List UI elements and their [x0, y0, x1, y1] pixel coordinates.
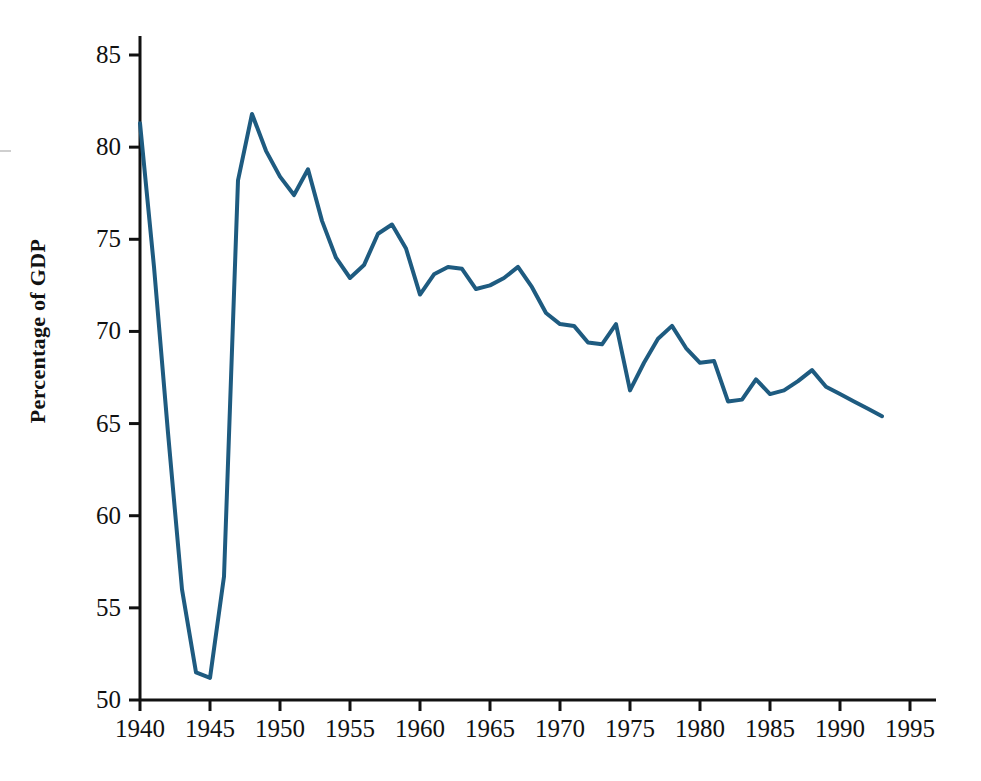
plot-area: [0, 0, 981, 781]
y-axis-tick-label: 65: [75, 411, 121, 436]
y-axis-tick-label: 60: [75, 503, 121, 528]
x-axis-tick-label: 1940: [100, 716, 180, 741]
x-axis-tick-label: 1950: [240, 716, 320, 741]
x-axis-tick-label: 1995: [870, 716, 950, 741]
x-axis-tick-label: 1965: [450, 716, 530, 741]
data-series-line: [140, 114, 882, 678]
y-axis-tick-label: 55: [75, 595, 121, 620]
y-axis-ticks: [129, 55, 140, 700]
x-axis-tick-label: 1975: [590, 716, 670, 741]
x-axis-tick-label: 1985: [730, 716, 810, 741]
x-axis-tick-label: 1955: [310, 716, 390, 741]
y-axis-tick-label: 80: [75, 134, 121, 159]
x-axis-tick-label: 1980: [660, 716, 740, 741]
y-axis-tick-label: 50: [75, 687, 121, 712]
x-axis-tick-label: 1960: [380, 716, 460, 741]
x-axis-tick-label: 1990: [800, 716, 880, 741]
x-axis-ticks: [140, 700, 910, 711]
y-axis-tick-label: 85: [75, 42, 121, 67]
x-axis-tick-label: 1945: [170, 716, 250, 741]
x-axis-tick-label: 1970: [520, 716, 600, 741]
y-axis-tick-label: 75: [75, 226, 121, 251]
y-axis-tick-label: 70: [75, 318, 121, 343]
chart-figure: Percentage of GDP 5055606570758085 19401…: [0, 0, 981, 781]
